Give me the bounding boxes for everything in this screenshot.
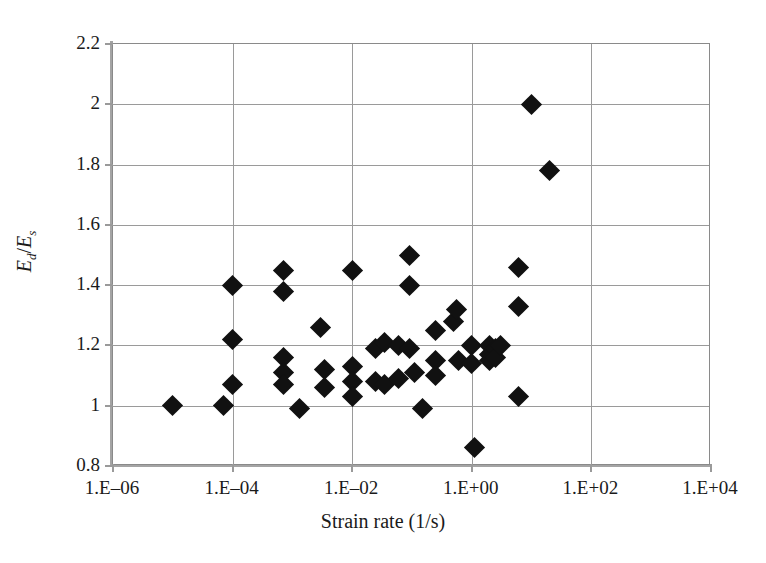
y-tick-mark — [105, 164, 113, 166]
data-point — [289, 398, 310, 419]
data-point — [213, 395, 234, 416]
y-tick-mark — [105, 103, 113, 105]
data-point — [222, 374, 243, 395]
x-tick-mark — [232, 464, 234, 472]
y-tick-mark — [105, 43, 113, 45]
gridline-vertical — [233, 44, 234, 464]
y-tick-label: 1.4 — [4, 274, 100, 293]
x-tick-mark — [471, 464, 473, 472]
x-tick-label: 1.E–04 — [167, 478, 297, 497]
gridline-vertical — [472, 44, 473, 464]
data-point — [412, 398, 433, 419]
y-tick-label: 2 — [4, 93, 100, 112]
data-point — [162, 395, 183, 416]
data-point — [508, 296, 529, 317]
x-tick-label: 1.E+04 — [645, 478, 766, 497]
y-tick-mark — [105, 224, 113, 226]
data-point — [310, 317, 331, 338]
y-tick-mark — [105, 405, 113, 407]
data-point — [273, 259, 294, 280]
x-tick-label: 1.E+00 — [406, 478, 536, 497]
y-tick-label: 1.2 — [4, 334, 100, 353]
y-tick-label: 1 — [4, 395, 100, 414]
data-point — [222, 275, 243, 296]
data-point — [399, 244, 420, 265]
y-tick-label: 0.8 — [4, 455, 100, 474]
x-tick-mark — [112, 464, 114, 472]
data-point — [464, 437, 485, 458]
x-tick-mark — [351, 464, 353, 472]
x-axis-title: Strain rate (1/s) — [0, 510, 766, 533]
y-tick-label: 1.8 — [4, 154, 100, 173]
x-tick-mark — [590, 464, 592, 472]
data-point — [222, 329, 243, 350]
gridline-horizontal — [113, 165, 709, 166]
y-tick-label: 2.2 — [4, 33, 100, 52]
data-point — [508, 386, 529, 407]
scatter-chart-figure: Ed/Es 0.811.21.41.61.822.2 1.E–061.E–041… — [0, 0, 766, 563]
x-tick-label: 1.E–06 — [47, 478, 177, 497]
data-point — [508, 256, 529, 277]
data-point — [521, 94, 542, 115]
gridline-horizontal — [113, 104, 709, 105]
data-point — [342, 386, 363, 407]
data-point — [342, 259, 363, 280]
gridline-horizontal — [113, 406, 709, 407]
data-point — [425, 365, 446, 386]
data-point — [314, 377, 335, 398]
gridline-horizontal — [113, 225, 709, 226]
data-point — [273, 374, 294, 395]
y-tick-mark — [105, 344, 113, 346]
data-point — [539, 160, 560, 181]
data-point — [425, 320, 446, 341]
data-point — [273, 281, 294, 302]
x-tick-mark — [710, 464, 712, 472]
y-tick-label: 1.6 — [4, 214, 100, 233]
data-point — [399, 275, 420, 296]
plot-area — [112, 43, 710, 465]
gridline-vertical — [591, 44, 592, 464]
x-tick-label: 1.E–02 — [286, 478, 416, 497]
y-tick-mark — [105, 284, 113, 286]
x-tick-label: 1.E+02 — [525, 478, 655, 497]
